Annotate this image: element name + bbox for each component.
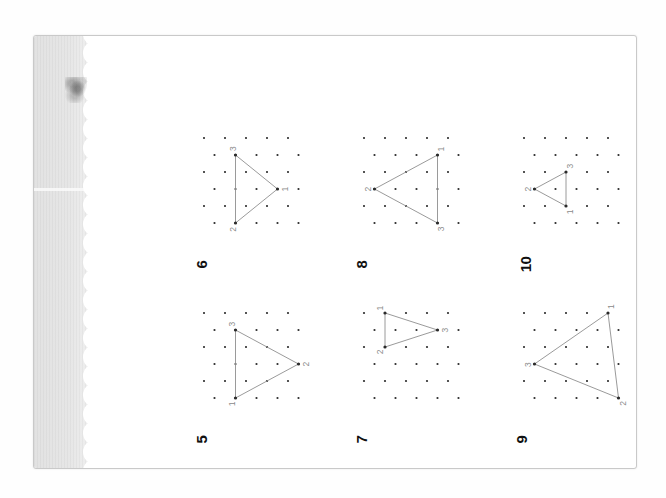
grid-dot: [363, 205, 365, 207]
grid-dot: [586, 312, 588, 314]
grid-dot: [447, 205, 449, 207]
grid-dot: [287, 137, 289, 139]
vertex-label: 2: [523, 186, 533, 191]
dot-grid-figure: 123: [192, 301, 321, 427]
grid-dot: [363, 171, 365, 173]
grid-dot: [436, 363, 438, 365]
triangle-outline: [236, 330, 299, 398]
grid-dot: [203, 171, 205, 173]
triangle-vertex-dot: [373, 187, 376, 190]
triangle-vertex-dot: [564, 204, 567, 207]
grid-dot: [533, 329, 535, 331]
dot-grid-figure: 123: [352, 301, 481, 427]
vertex-label: 1: [436, 146, 446, 151]
grid-dot: [575, 397, 577, 399]
grid-dot: [426, 205, 428, 207]
grid-dot: [533, 154, 535, 156]
grid-dot: [533, 222, 535, 224]
grid-dot: [415, 363, 417, 365]
triangle-vertex-dot: [533, 362, 536, 365]
problem-number-10: 10: [517, 257, 534, 273]
grid-dot: [586, 205, 588, 207]
grid-dot: [245, 380, 247, 382]
grid-dot: [405, 346, 407, 348]
grid-dot: [297, 329, 299, 331]
grid-dot: [523, 346, 525, 348]
grid-dot: [426, 312, 428, 314]
grid-dot: [266, 137, 268, 139]
grid-dot: [426, 137, 428, 139]
grid-dot: [554, 397, 556, 399]
vertex-label: 2: [301, 361, 311, 366]
grid-dot: [224, 137, 226, 139]
vertex-label: 2: [228, 227, 238, 232]
problem-number-8: 8: [353, 261, 370, 269]
grid-dot: [213, 329, 215, 331]
grid-dot: [405, 312, 407, 314]
grid-dot: [276, 329, 278, 331]
grid-dot: [213, 222, 215, 224]
problem-area: 1235123612371238123912310: [104, 36, 636, 468]
grid-dot: [255, 188, 257, 190]
grid-dot: [586, 346, 588, 348]
grid-dot: [297, 188, 299, 190]
problem-number-5: 5: [193, 436, 210, 444]
grid-dot: [373, 329, 375, 331]
grid-dot: [266, 312, 268, 314]
grid-dot: [287, 346, 289, 348]
grid-dot: [447, 346, 449, 348]
grid-dot: [224, 171, 226, 173]
grid-dot: [586, 380, 588, 382]
grid-dot: [565, 380, 567, 382]
grid-dot: [287, 312, 289, 314]
grid-dot: [617, 188, 619, 190]
grid-dot: [447, 380, 449, 382]
grid-dot: [565, 137, 567, 139]
grid-dot: [596, 329, 598, 331]
grid-dot: [276, 397, 278, 399]
triangle-outline: [535, 313, 619, 398]
grid-dot: [405, 380, 407, 382]
grid-dot: [384, 380, 386, 382]
triangle-outline: [535, 172, 567, 206]
grid-dot: [447, 312, 449, 314]
triangle-vertex-dot: [234, 221, 237, 224]
grid-dot: [523, 205, 525, 207]
grid-dot: [544, 205, 546, 207]
grid-dot: [457, 363, 459, 365]
grid-dot: [447, 171, 449, 173]
grid-dot: [276, 222, 278, 224]
problem-6: 1236: [192, 126, 321, 252]
grid-dot: [596, 188, 598, 190]
grid-dot: [394, 222, 396, 224]
grid-dot: [523, 380, 525, 382]
grid-dot: [245, 205, 247, 207]
grid-dot: [565, 346, 567, 348]
grid-dot: [255, 397, 257, 399]
triangle-vertex-dot: [234, 153, 237, 156]
grid-dot: [426, 171, 428, 173]
triangle-vertex-dot: [383, 345, 386, 348]
problem-number-9: 9: [513, 436, 530, 444]
vertex-label: 1: [375, 305, 385, 310]
triangle-vertex-dot: [383, 311, 386, 314]
grid-dot: [607, 137, 609, 139]
grid-dot: [297, 222, 299, 224]
grid-dot: [436, 397, 438, 399]
grid-dot: [266, 205, 268, 207]
grid-dot: [373, 154, 375, 156]
vertex-label: 3: [227, 321, 237, 326]
grid-dot: [394, 154, 396, 156]
problem-9: 1239: [512, 301, 637, 427]
vertex-label: 3: [440, 327, 450, 332]
vertex-label: 2: [363, 186, 373, 191]
grid-dot: [255, 222, 257, 224]
grid-dot: [255, 329, 257, 331]
grid-dot: [607, 346, 609, 348]
grid-dot: [384, 137, 386, 139]
grid-dot: [276, 154, 278, 156]
grid-dot: [607, 205, 609, 207]
grid-dot: [575, 154, 577, 156]
grid-dot: [394, 363, 396, 365]
vertex-label: 3: [228, 146, 238, 151]
